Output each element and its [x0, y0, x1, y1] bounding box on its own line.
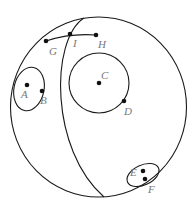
label-i: I [72, 37, 78, 49]
label-e: E [129, 166, 137, 178]
point-i [68, 32, 73, 37]
point-h [94, 33, 99, 38]
point-g [44, 39, 49, 44]
point-e [141, 169, 146, 174]
points-group: GIHABCDEF [20, 32, 155, 195]
point-a [25, 83, 30, 88]
label-d: D [123, 105, 132, 117]
point-c [97, 81, 102, 86]
label-g: G [49, 45, 57, 57]
point-f [143, 177, 148, 182]
point-b [40, 89, 45, 94]
label-c: C [101, 69, 109, 81]
sphere-diagram: GIHABCDEF [0, 0, 195, 206]
label-h: H [97, 38, 107, 50]
label-a: A [20, 88, 28, 100]
label-b: B [40, 94, 47, 106]
point-d [122, 99, 127, 104]
label-f: F [147, 183, 155, 195]
